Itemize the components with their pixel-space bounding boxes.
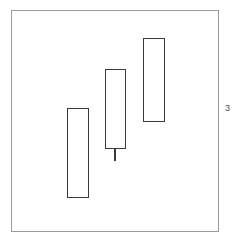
candle-2-body — [105, 69, 126, 149]
clipped-edge-label: 3 — [225, 104, 230, 113]
candle-3-body — [143, 38, 165, 122]
candle-2-lower-wick — [114, 149, 116, 161]
candle-1-body — [67, 108, 89, 198]
candlestick-figure: 3 — [0, 0, 233, 245]
